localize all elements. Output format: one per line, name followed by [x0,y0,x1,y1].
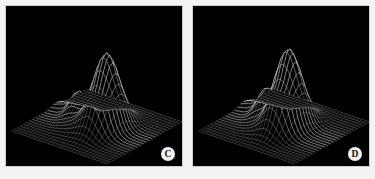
figure-margin-right [370,0,375,179]
panel-divider [183,0,192,179]
surface-plot-panel-c: C [5,5,183,167]
figure-panel-group: C D [0,0,375,179]
panel-label-d: D [348,147,362,161]
figure-margin-top [0,0,375,5]
wireframe-surface-d [193,6,369,166]
surface-plot-panel-d: D [192,5,370,167]
panel-label-c: C [161,147,175,161]
figure-margin-bottom [0,167,375,179]
wireframe-surface-c [6,6,182,166]
figure-margin-left [0,0,5,179]
